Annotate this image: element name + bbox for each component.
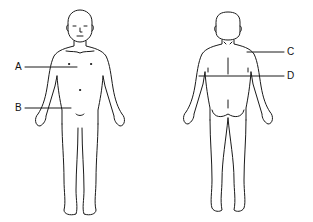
back-figure	[184, 12, 273, 211]
label-b: B	[15, 103, 22, 113]
label-c: C	[287, 47, 294, 57]
body-diagram	[0, 0, 313, 222]
label-a: A	[15, 62, 22, 72]
label-d: D	[287, 71, 294, 81]
front-figure	[36, 10, 125, 215]
